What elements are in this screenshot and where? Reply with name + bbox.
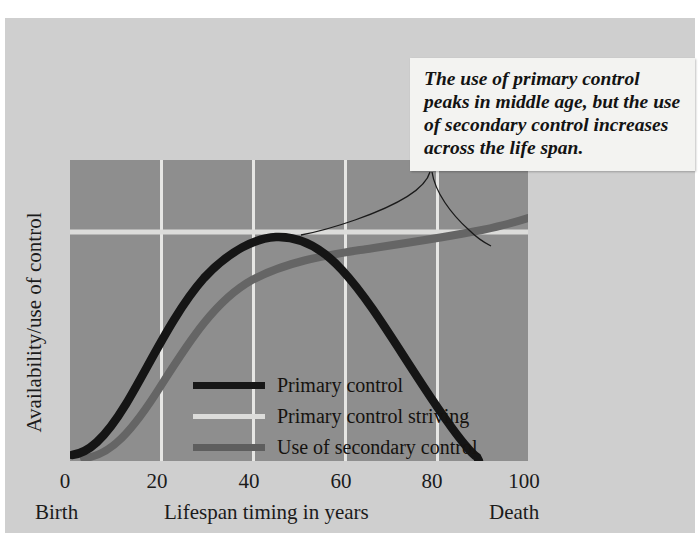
chart-legend: Primary control Primary control striving…: [193, 370, 478, 463]
x-tick-100: 100: [494, 469, 554, 494]
figure-panel: Primary control Primary control striving…: [5, 18, 695, 533]
legend-label-primary-control-striving: Primary control striving: [277, 405, 469, 428]
legend-swatch-primary-control-striving: [193, 414, 265, 419]
legend-item-primary-control-striving: Primary control striving: [193, 401, 478, 432]
legend-item-primary-control: Primary control: [193, 370, 478, 401]
x-tick-0: 0: [35, 469, 95, 494]
x-tick-80: 80: [402, 469, 462, 494]
callout-box: The use of primary control peaks in midd…: [410, 58, 695, 171]
x-axis-label: Lifespan timing in years: [164, 500, 369, 525]
x-tick-20: 20: [127, 469, 187, 494]
callout-text: The use of primary control peaks in midd…: [424, 67, 683, 159]
x-tick-60: 60: [311, 469, 371, 494]
x-axis-end-label: Death: [489, 500, 539, 525]
legend-label-primary-control: Primary control: [277, 374, 403, 397]
legend-swatch-primary-control: [193, 382, 265, 389]
y-axis-label: Availability/use of control: [22, 188, 47, 458]
x-tick-40: 40: [219, 469, 279, 494]
legend-swatch-use-of-secondary-control: [193, 444, 265, 451]
figure-container: Primary control Primary control striving…: [0, 0, 700, 533]
legend-item-use-of-secondary-control: Use of secondary control: [193, 432, 478, 463]
x-axis-start-label: Birth: [35, 500, 78, 525]
legend-label-use-of-secondary-control: Use of secondary control: [277, 436, 478, 459]
